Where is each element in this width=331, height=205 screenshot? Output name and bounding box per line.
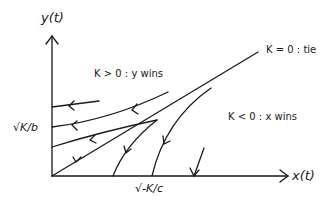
x-axis-label: x(t) — [292, 168, 315, 183]
y-axis-label: y(t) — [41, 10, 64, 25]
trajectory-upper-1 — [52, 101, 99, 107]
region-label-tie: K = 0 : tie — [266, 44, 316, 55]
trajectory-arrow-icon — [69, 101, 74, 110]
x-tick-label: √-K/c — [135, 182, 163, 195]
trajectory-arrow-icon — [190, 168, 199, 176]
trajectory-arrow-icon — [72, 121, 77, 130]
trajectory-lower-3 — [194, 148, 204, 176]
region-label-lower: K < 0 : x wins — [228, 111, 297, 122]
phase-plot-lines — [0, 0, 331, 205]
y-tick-label: √K/b — [13, 121, 38, 134]
phase-portrait-diagram: y(t) x(t) √K/b √-K/c K > 0 : y wins K = … — [0, 0, 331, 205]
trajectory-lower-2 — [152, 88, 211, 176]
region-label-upper: K > 0 : y wins — [94, 68, 163, 79]
